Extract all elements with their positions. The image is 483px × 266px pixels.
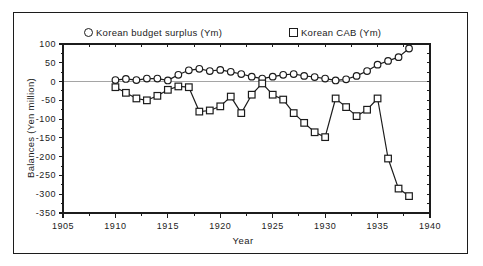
budget-surplus-point (311, 74, 318, 81)
x-tick-label: 1930 (314, 221, 336, 231)
y-tick-label: -50 (41, 95, 56, 105)
y-tick-label: -100 (36, 114, 56, 124)
x-tick-label: 1910 (104, 221, 126, 231)
legend-label-cab: Korean CAB (Ym) (301, 27, 381, 38)
y-tick-label: 100 (39, 39, 56, 49)
budget-surplus-point (343, 76, 350, 83)
budget-surplus-point (217, 67, 224, 74)
cab-point (343, 104, 350, 111)
plot-frame (63, 44, 430, 213)
circle-marker-icon (84, 28, 93, 37)
cab-point (133, 95, 140, 102)
cab-point (175, 83, 182, 90)
budget-surplus-point (154, 75, 161, 82)
budget-surplus-point (144, 75, 151, 82)
budget-surplus-point (290, 71, 297, 78)
y-tick-label: -200 (36, 152, 56, 162)
cab-point (186, 84, 193, 91)
budget-surplus-point (322, 75, 329, 82)
cab-point (238, 110, 245, 117)
legend-item-budget-surplus: Korean budget surplus (Ym) (84, 27, 222, 38)
budget-surplus-point (395, 54, 402, 61)
x-tick-label: 1935 (366, 221, 388, 231)
cab-point (227, 93, 234, 100)
cab-point (332, 95, 339, 102)
chart-canvas: 19051910191519201925193019351940100500-5… (0, 0, 483, 266)
cab-point (123, 90, 130, 97)
budget-surplus-point (353, 73, 360, 80)
cab-point (144, 97, 151, 104)
cab-point (374, 95, 381, 102)
y-axis-title: Balances (Yen million) (25, 43, 37, 213)
budget-surplus-point (123, 76, 130, 83)
budget-surplus-point (332, 77, 339, 84)
cab-series (112, 80, 412, 199)
y-tick-label: -150 (36, 133, 56, 143)
cab-point (154, 93, 161, 100)
y-tick-label: 0 (50, 77, 56, 87)
cab-point (165, 87, 172, 94)
cab-line (115, 83, 409, 196)
x-axis-title: Year (213, 235, 273, 246)
budget-surplus-point (175, 71, 182, 78)
budget-surplus-point (248, 73, 255, 80)
y-tick-label: 50 (45, 58, 56, 68)
budget-surplus-point (406, 45, 413, 52)
cab-point (280, 96, 287, 103)
cab-point (353, 113, 360, 120)
budget-surplus-point (364, 68, 371, 75)
x-tick-label: 1940 (419, 221, 441, 231)
cab-point (322, 134, 329, 141)
cab-point (207, 107, 214, 114)
cab-point (301, 120, 308, 127)
budget-surplus-point (385, 58, 392, 65)
budget-surplus-point (186, 67, 193, 74)
y-tick-label: -350 (36, 208, 56, 218)
budget-surplus-point (227, 68, 234, 75)
budget-surplus-point (374, 61, 381, 68)
cab-point (196, 108, 203, 115)
x-tick-label: 1915 (157, 221, 179, 231)
x-tick-label: 1905 (52, 221, 74, 231)
x-tick-label: 1920 (209, 221, 231, 231)
x-axis: 19051910191519201925193019351940 (52, 44, 441, 231)
y-tick-label: -250 (36, 170, 56, 180)
budget-surplus-point (207, 68, 214, 75)
figure: 19051910191519201925193019351940100500-5… (0, 0, 483, 266)
budget-surplus-point (133, 77, 140, 84)
y-tick-label: -300 (36, 189, 56, 199)
cab-point (269, 91, 276, 98)
legend-item-cab: Korean CAB (Ym) (289, 27, 381, 38)
budget-surplus-point (280, 71, 287, 78)
budget-surplus-point (112, 77, 119, 84)
cab-point (385, 155, 392, 162)
budget-surplus-point (269, 73, 276, 80)
y-axis: 100500-50-100-150-200-250-300-350 (36, 39, 430, 218)
budget-surplus-point (196, 65, 203, 72)
cab-point (406, 193, 413, 200)
cab-point (395, 185, 402, 192)
square-marker-icon (289, 28, 298, 37)
budget-surplus-point (238, 71, 245, 78)
cab-point (290, 110, 297, 117)
cab-point (259, 80, 266, 87)
budget-surplus-point (165, 77, 172, 84)
budget-surplus-series (112, 45, 412, 84)
legend-label-budget-surplus: Korean budget surplus (Ym) (96, 27, 222, 38)
cab-point (217, 103, 224, 110)
x-tick-label: 1925 (262, 221, 284, 231)
budget-surplus-point (301, 73, 308, 80)
cab-point (364, 106, 371, 113)
cab-point (311, 129, 318, 136)
cab-point (112, 84, 119, 91)
cab-point (248, 91, 255, 98)
